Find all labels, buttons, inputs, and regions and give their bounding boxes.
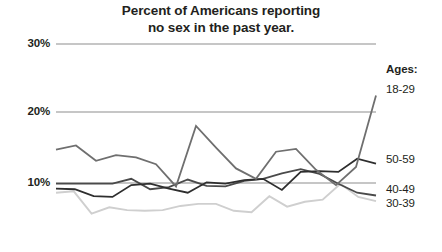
legend-label-18-29: 18-29 [386, 83, 415, 95]
y-axis-tick-30: 30% [2, 37, 50, 49]
y-axis-tick-20: 20% [2, 105, 50, 117]
chart-container: Percent of Americans reporting no sex in… [0, 0, 442, 252]
gridlines [56, 44, 376, 183]
legend-title: Ages: [386, 63, 417, 75]
series-layer [56, 95, 376, 213]
legend-label-40-49: 40-49 [386, 183, 415, 195]
y-axis-tick-10: 10% [2, 176, 50, 188]
series-line-18-29 [56, 95, 376, 186]
legend-label-30-39: 30-39 [386, 197, 415, 209]
plot-area [0, 0, 442, 252]
series-line-30-39 [56, 184, 376, 214]
legend-label-50-59: 50-59 [386, 153, 415, 165]
